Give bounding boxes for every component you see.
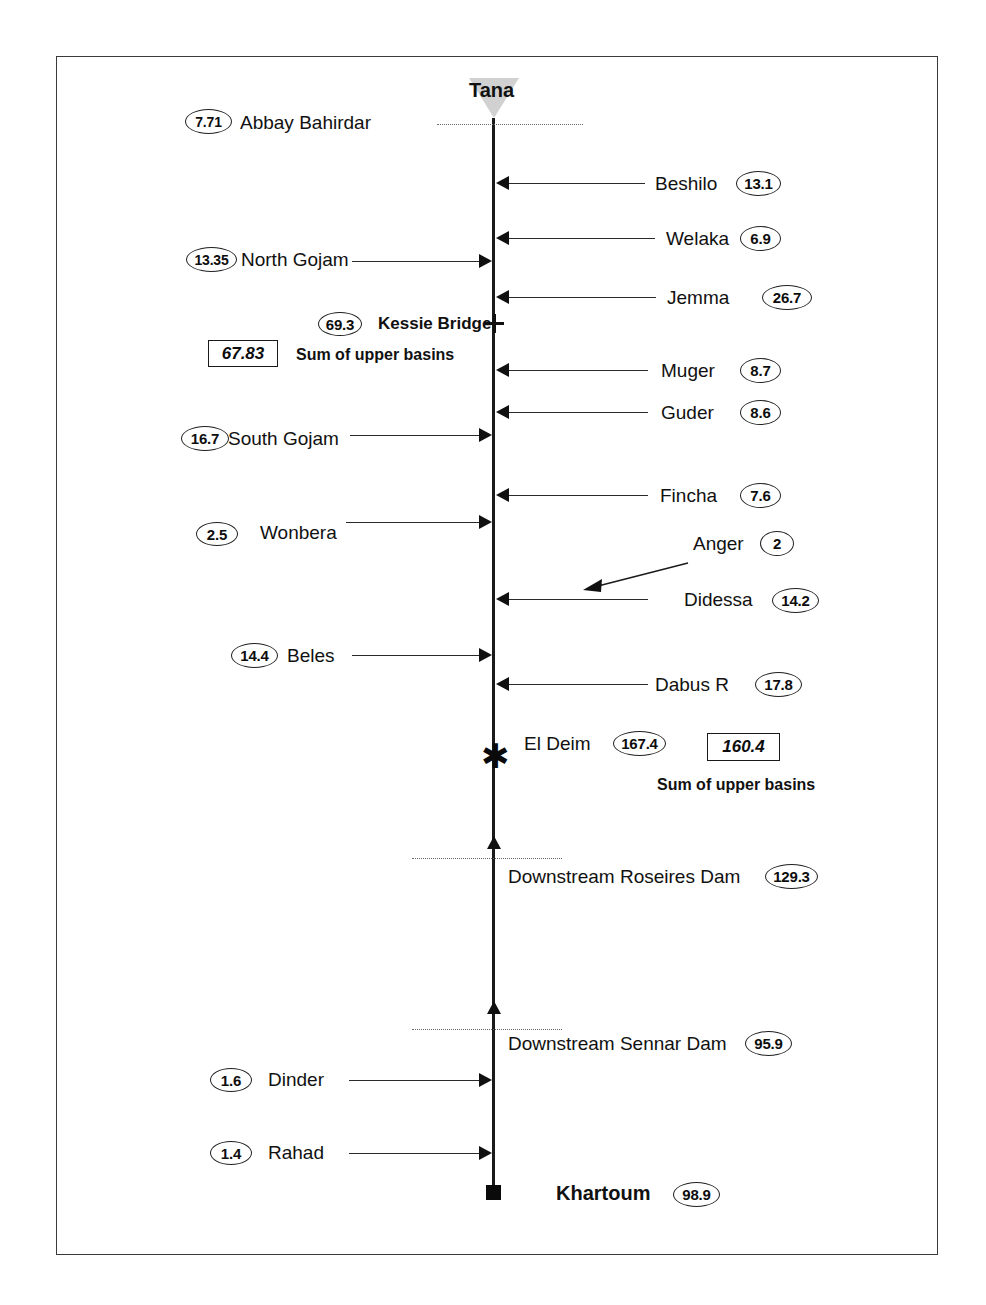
arrowhead-north-gojam [479,254,492,268]
stem-muger [508,370,648,371]
stem-welaka [508,238,655,239]
node-label-muger: Muger [661,361,715,380]
stem-south-gojam [350,435,481,436]
asterisk-marker-icon: ✱ [481,739,510,773]
node-label-dinder: Dinder [268,1070,324,1089]
node-label-sennar: Downstream Sennar Dam [508,1034,727,1053]
arrowhead-jemma [496,290,509,304]
node-label-khartoum: Khartoum [556,1183,650,1203]
value-jemma: 26.7 [762,285,812,310]
stem-beshilo [508,183,645,184]
node-label-dabus: Dabus R [655,675,729,694]
stem-fincha [508,495,648,496]
value-welaka: 6.9 [740,226,781,251]
sum-caption-upper-basins-2: Sum of upper basins [657,776,815,794]
value-muger: 8.7 [740,358,781,383]
node-label-tana: Tana [469,80,514,100]
value-fincha: 7.6 [740,483,781,508]
value-roseires: 129.3 [765,864,818,889]
node-label-jemma: Jemma [667,288,729,307]
value-beshilo: 13.1 [736,171,781,196]
value-guder: 8.6 [740,400,781,425]
arrowhead-guder [496,405,509,419]
node-label-el-deim: El Deim [524,734,591,753]
arrowhead-south-gojam [479,428,492,442]
node-label-welaka: Welaka [666,229,729,248]
level-line-sennar [412,1029,562,1030]
stem-rahad [349,1153,481,1154]
value-didessa: 14.2 [772,588,819,613]
node-label-anger: Anger [693,534,744,553]
value-south-gojam: 16.7 [181,426,229,451]
value-north-gojam: 13.35 [186,247,237,272]
value-anger: 2 [760,531,794,556]
value-abbay-bahirdar: 7.71 [185,109,232,134]
arrowhead-roseires [487,836,501,849]
arrowhead-wonbera [479,515,492,529]
value-el-deim: 167.4 [613,731,666,756]
value-khartoum: 98.9 [673,1182,720,1207]
stem-north-gojam [352,261,481,262]
diagram-page: Tana 7.71 Abbay Bahirdar Beshilo 13.1 We… [0,0,986,1305]
value-sennar: 95.9 [745,1031,792,1056]
level-line-roseires [412,858,562,859]
stem-dinder [349,1080,481,1081]
node-label-rahad: Rahad [268,1143,324,1162]
arrowhead-muger [496,363,509,377]
stem-beles [352,655,481,656]
arrowhead-fincha [496,488,509,502]
node-label-beles: Beles [287,646,335,665]
arrowhead-rahad [479,1146,492,1160]
stem-guder [508,412,648,413]
node-label-abbay-bahirdar: Abbay Bahirdar [240,113,371,132]
square-marker-icon [486,1185,501,1200]
value-dinder: 1.6 [210,1068,252,1092]
arrowhead-beshilo [496,176,509,190]
node-label-wonbera: Wonbera [260,523,337,542]
stem-dabus [508,684,648,685]
node-label-guder: Guder [661,403,714,422]
stem-jemma [508,297,656,298]
arrowhead-dabus [496,677,509,691]
node-label-north-gojam: North Gojam [241,250,349,269]
arrowhead-didessa [496,592,509,606]
value-rahad: 1.4 [210,1141,252,1165]
node-label-fincha: Fincha [660,486,717,505]
value-wonbera: 2.5 [196,522,238,546]
node-label-roseires: Downstream Roseires Dam [508,867,740,886]
stem-wonbera [346,522,481,523]
value-kessie-bridge: 69.3 [318,312,362,336]
value-beles: 14.4 [231,643,278,668]
cross-marker-icon-vertical [493,314,496,333]
arrowhead-beles [479,648,492,662]
sum-box-upper-basins-2: 160.4 [707,733,780,761]
sum-caption-upper-basins-1: Sum of upper basins [296,346,454,364]
stem-didessa [508,599,648,600]
node-label-beshilo: Beshilo [655,174,717,193]
node-label-south-gojam: South Gojam [228,429,339,448]
arrowhead-sennar [487,1001,501,1014]
node-label-didessa: Didessa [684,590,753,609]
level-line-abbay-bahirdar [437,124,583,125]
arrowhead-welaka [496,231,509,245]
sum-box-upper-basins-1: 67.83 [208,340,278,367]
arrowhead-dinder [479,1073,492,1087]
node-label-kessie-bridge: Kessie Bridge [378,315,491,332]
value-dabus: 17.8 [755,672,802,697]
